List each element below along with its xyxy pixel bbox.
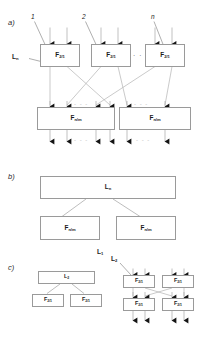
panel-a-block-fnm-left-label: Fn/m xyxy=(71,115,82,122)
panel-c-block-f21-left[interactable]: F2/1 xyxy=(32,294,64,307)
panel-c-callout-label: L2 xyxy=(111,256,117,263)
panel-c-grid-block-r0c1[interactable]: F2/1 xyxy=(162,275,194,288)
panel-a-block-f21-n-label: F2/1 xyxy=(160,52,169,59)
panel-label-c: c) xyxy=(8,263,14,272)
panel-label-a: a) xyxy=(8,18,15,27)
panel-b-footer-sub: 1 xyxy=(101,251,103,256)
panel-b-block-fnm-right-label: Fn/m xyxy=(141,225,152,232)
panel-a-block-f21-2-label: F2/1 xyxy=(106,52,115,59)
panel-b-tree-links xyxy=(62,199,140,217)
panel-a-block-f21-2[interactable]: F2/1 xyxy=(91,44,131,67)
panel-c-grid-mid-inputs xyxy=(133,292,184,298)
panel-a-block-f21-1-label: F2/1 xyxy=(55,52,64,59)
panel-a-block-f21-n[interactable]: F2/1 xyxy=(145,44,185,67)
panel-c-callout-leader xyxy=(120,263,131,275)
panel-a-top-inputs xyxy=(50,28,172,45)
callout-ln-sub: n xyxy=(16,56,19,61)
figure-root: a) b) c) 1 2 n Ln F2/1 F2/1 · · · F2/1 -… xyxy=(0,0,201,337)
panel-b-block-ln[interactable]: Ln xyxy=(40,176,176,199)
panel-label-b: b) xyxy=(8,172,15,181)
callout-label-ln: Ln xyxy=(12,54,19,61)
panel-c-grid-block-r0c0[interactable]: F2/1 xyxy=(123,275,155,288)
panel-c-grid-midwires xyxy=(133,288,184,296)
panel-a-block-fnm-left[interactable]: Fn/m xyxy=(37,107,115,130)
input-index-1: 1 xyxy=(31,14,35,21)
panel-b-block-ln-label: Ln xyxy=(105,184,111,191)
panel-c-block-l2-label: L2 xyxy=(64,274,69,280)
panel-c-grid-block-r1c0-label: F2/1 xyxy=(135,301,143,307)
panel-c-callout-sub: 2 xyxy=(115,258,117,263)
panel-c-grid-block-r0c0-label: F2/1 xyxy=(135,278,143,284)
panel-c-grid-block-r1c1-label: F2/1 xyxy=(174,301,182,307)
panel-b-block-fnm-left[interactable]: Fn/m xyxy=(40,216,100,240)
panel-a-block-fnm-right-label: Fn/m xyxy=(150,115,161,122)
panel-c-block-l2[interactable]: L2 xyxy=(38,271,95,284)
panel-a-out-ellipsis-right: - - - xyxy=(136,137,150,143)
panel-b-block-fnm-right[interactable]: Fn/m xyxy=(116,216,176,240)
panel-c-grid-block-r1c0[interactable]: F2/1 xyxy=(123,298,155,311)
panel-c-block-f21-right-label: F2/1 xyxy=(82,297,90,303)
panel-b-footer-label: L1 xyxy=(97,249,103,256)
panel-a-crossing-wires xyxy=(50,67,172,106)
panel-a-out-ellipsis-left: - - - xyxy=(74,137,88,143)
panel-a-block-fnm-right[interactable]: Fn/m xyxy=(119,107,191,130)
panel-b-block-fnm-left-label: Fn/m xyxy=(65,225,76,232)
panel-c-grid-block-r1c1[interactable]: F2/1 xyxy=(162,298,194,311)
panel-c-tree-links xyxy=(47,284,84,294)
panel-c-block-f21-right[interactable]: F2/1 xyxy=(70,294,102,307)
input-index-n: n xyxy=(151,14,155,21)
panel-c-grid-block-r0c1-label: F2/1 xyxy=(174,278,182,284)
panel-c-block-f21-left-label: F2/1 xyxy=(44,297,52,303)
panel-a-block-f21-1[interactable]: F2/1 xyxy=(40,44,80,67)
panel-c-grid-outputs xyxy=(133,311,184,321)
input-index-2: 2 xyxy=(82,14,86,21)
